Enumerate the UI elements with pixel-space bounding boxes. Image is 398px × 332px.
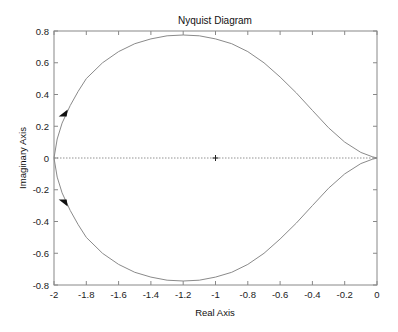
chart-title: Nyquist Diagram: [178, 15, 252, 26]
curve-positive-frequencies: [54, 158, 377, 281]
x-tick-label: 0: [374, 289, 379, 300]
x-tick-label: -1.4: [143, 289, 159, 300]
x-tick-label: -0.6: [272, 289, 288, 300]
x-tick-label: -0.4: [304, 289, 320, 300]
y-tick-label: -0.8: [33, 280, 49, 291]
x-tick-label: -1.8: [78, 289, 94, 300]
y-tick-label: 0: [44, 153, 49, 164]
direction-arrow-icon: [59, 110, 68, 117]
y-tick-label: -0.4: [33, 216, 49, 227]
nyquist-chart: Nyquist Diagram -2-1.8-1.6-1.4-1.2-1-0.8…: [0, 0, 398, 332]
y-tick-label: 0.4: [36, 89, 49, 100]
y-tick-label: 0.2: [36, 121, 49, 132]
curve-negative-frequencies: [54, 35, 377, 158]
x-tick-label: -1: [211, 289, 219, 300]
critical-point-marker: [213, 155, 219, 161]
x-tick-label: -2: [50, 289, 58, 300]
x-tick-label: -1.2: [175, 289, 191, 300]
y-tick-label: 0.8: [36, 26, 49, 37]
y-tick-label: 0.6: [36, 57, 49, 68]
axis-ticks: -2-1.8-1.6-1.4-1.2-1-0.8-0.6-0.4-0.200.8…: [33, 26, 380, 301]
y-tick-label: -0.6: [33, 248, 49, 259]
direction-arrow-icon: [59, 199, 68, 206]
x-axis-label: Real Axis: [195, 307, 235, 318]
y-tick-label: -0.2: [33, 184, 49, 195]
y-axis-label: Imaginary Axis: [17, 127, 28, 189]
x-tick-label: -0.8: [240, 289, 256, 300]
x-tick-label: -1.6: [110, 289, 126, 300]
x-tick-label: -0.2: [337, 289, 353, 300]
